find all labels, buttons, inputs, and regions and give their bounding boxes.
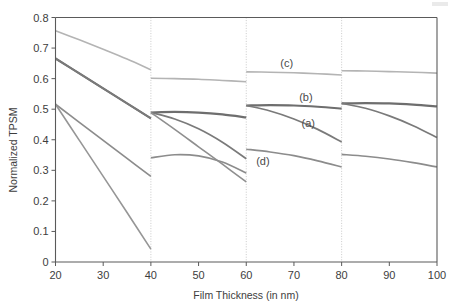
y-tick-label: 0.7 — [33, 42, 48, 54]
curve-label-a: (a) — [302, 117, 315, 129]
y-tick-label: 0.5 — [33, 103, 48, 115]
x-tick-label: 70 — [288, 269, 300, 281]
tpsm-vs-film-thickness-chart: 00.10.20.30.40.50.60.70.8 20304050607080… — [0, 0, 455, 307]
y-tick-label: 0.1 — [33, 225, 48, 237]
y-tick-label: 0.6 — [33, 73, 48, 85]
y-axis-title: Normalized TPSM — [7, 108, 19, 193]
curve-label-d: (d) — [256, 155, 269, 167]
x-tick-label: 90 — [383, 269, 395, 281]
x-tick-label: 80 — [336, 269, 348, 281]
y-tick-label: 0.3 — [33, 164, 48, 176]
y-tick-label: 0.4 — [33, 134, 48, 146]
y-tick-label: 0.2 — [33, 195, 48, 207]
chart-background — [0, 0, 455, 307]
curve-label-b: (b) — [299, 91, 312, 103]
chart-figure: 00.10.20.30.40.50.60.70.8 20304050607080… — [0, 0, 455, 307]
x-tick-label: 50 — [192, 269, 204, 281]
top-right-artifact — [432, 2, 448, 6]
x-tick-label: 30 — [97, 269, 109, 281]
x-tick-label: 100 — [428, 269, 446, 281]
x-tick-label: 20 — [49, 269, 61, 281]
x-tick-label: 40 — [145, 269, 157, 281]
x-axis-title: Film Thickness (in nm) — [193, 289, 298, 301]
y-tick-label: 0.8 — [33, 12, 48, 24]
curve-label-c: (c) — [280, 57, 293, 69]
x-tick-label: 60 — [240, 269, 252, 281]
y-tick-label: 0 — [42, 256, 48, 268]
